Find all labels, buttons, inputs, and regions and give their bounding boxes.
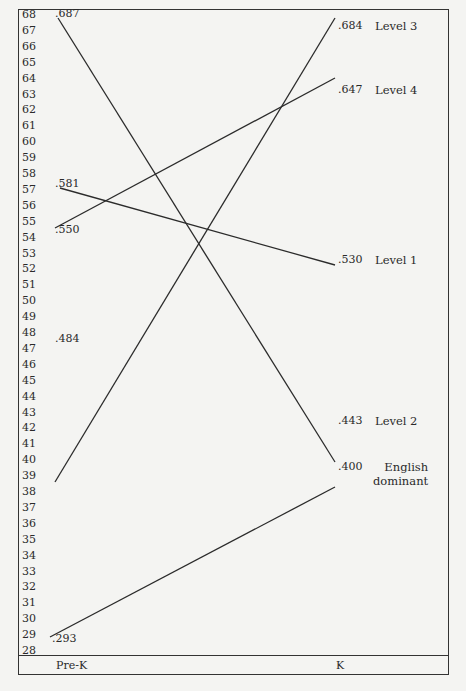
value-k-684: .684 (338, 20, 363, 32)
label-level-3: Level 3 (375, 19, 417, 33)
value-k-443: .443 (338, 415, 363, 427)
line-level-1 (60, 188, 335, 265)
label-level-4: Level 4 (375, 83, 417, 97)
label-level-2: Level 2 (375, 414, 417, 428)
value-k-530: .530 (338, 254, 363, 266)
plot-lines (0, 0, 466, 691)
value-pre-581: .581 (55, 178, 80, 190)
label-english-dominant: English dominant (373, 460, 428, 488)
line-level-4 (55, 78, 335, 228)
value-k-647: .647 (338, 84, 363, 96)
value-pre-687: .687 (55, 8, 80, 20)
line-english-dominant (50, 487, 335, 637)
value-pre-293: .293 (52, 633, 77, 645)
label-level-1: Level 1 (375, 253, 417, 267)
value-pre-484: .484 (55, 333, 80, 345)
line-level-2 (58, 18, 335, 462)
value-pre-550: .550 (55, 224, 80, 236)
value-k-400: .400 (338, 461, 363, 473)
line-level-3 (55, 18, 335, 482)
